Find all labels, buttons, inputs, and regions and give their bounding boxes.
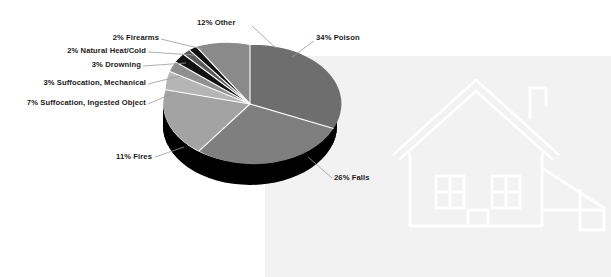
pie-chart-figure: 12% Other 34% Poison 26% Falls 11% Fires… <box>0 0 611 277</box>
label-firearms: 2% Firearms <box>113 34 159 42</box>
leader-poison <box>292 41 314 57</box>
label-drowning: 3% Drowning <box>92 61 141 69</box>
leader-other <box>252 26 276 48</box>
pie-top-face <box>163 43 341 164</box>
label-poison: 34% Poison <box>316 34 360 42</box>
pie-chart-graphic <box>0 0 611 277</box>
leader-firearms <box>161 39 202 49</box>
label-suffocation-mechanical: 3% Suffocation, Mechanical <box>43 79 146 87</box>
label-other: 12% Other <box>197 19 235 27</box>
label-fires: 11% Fires <box>116 153 152 161</box>
label-falls: 26% Falls <box>334 174 370 182</box>
label-suffocation-ingested: 7% Suffocation, Ingested Object <box>27 99 146 107</box>
label-natural-heat-cold: 2% Natural Heat/Cold <box>67 47 146 55</box>
